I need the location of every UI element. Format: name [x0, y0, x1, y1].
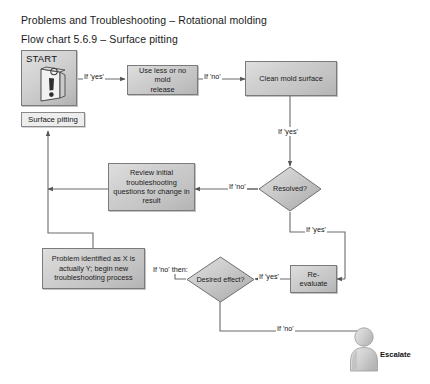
node-surface-pitting-label: Surface pitting — [28, 115, 78, 124]
text-line: Problem identified as X is — [46, 254, 141, 263]
node-start[interactable]: START — [21, 50, 77, 106]
edge-label-use-less-to-clean: If 'no' — [203, 72, 222, 81]
edge-label-start-to-use-less: If 'yes' — [83, 72, 105, 81]
node-desired-effect-decision[interactable]: Desired effect? — [186, 256, 255, 303]
text-line: troubleshooting — [112, 178, 191, 187]
edge-label-clean-to-resolved: If 'yes' — [277, 127, 299, 136]
node-use-less-release[interactable]: Use less or no mold release — [127, 65, 198, 95]
flowchart-canvas: Problems and Troubleshooting – Rotationa… — [0, 0, 430, 384]
edge-label-desired-to-escalate: If 'no' — [276, 324, 295, 333]
node-resolved-decision[interactable]: Resolved? — [258, 166, 322, 212]
node-problem-identified-label: Problem identified as X is actually Y; b… — [46, 254, 141, 282]
node-clean-mold-surface[interactable]: Clean mold surface — [245, 61, 337, 96]
diamond-shape — [258, 166, 322, 212]
node-clean-mold-surface-label: Clean mold surface — [249, 74, 333, 83]
page-title: Problems and Troubleshooting – Rotationa… — [21, 14, 267, 26]
text-line: release — [131, 85, 194, 94]
text-line: questions for change in — [112, 187, 191, 196]
node-re-evaluate-label: Re-evaluate — [294, 270, 333, 289]
edge-label-desired-to-problem: If 'no' then: — [152, 265, 189, 274]
text-line: result — [112, 196, 191, 205]
edge-label-resolved-to-reevaluate: If 'yes' — [305, 225, 327, 234]
text-line: Use less or no mold — [131, 66, 194, 85]
node-surface-pitting[interactable]: Surface pitting — [21, 112, 85, 127]
start-label: START — [26, 53, 57, 64]
page-subtitle: Flow chart 5.6.9 – Surface pitting — [21, 33, 178, 45]
node-re-evaluate[interactable]: Re-evaluate — [290, 265, 337, 293]
node-review-initial-label: Review initial troubleshooting questions… — [112, 168, 191, 206]
text-line: troubleshooting process — [46, 273, 141, 282]
node-escalate-label: Escalate — [380, 350, 411, 359]
edge-label-reevaluate-to-desired: If 'yes' — [258, 272, 280, 281]
text-line: Review initial — [112, 168, 191, 177]
node-review-initial[interactable]: Review initial troubleshooting questions… — [108, 163, 195, 211]
node-problem-identified[interactable]: Problem identified as X is actually Y; b… — [42, 248, 145, 289]
person-icon[interactable] — [348, 326, 380, 372]
edge-label-resolved-to-review: If 'no' — [228, 182, 247, 191]
text-line: actually Y; begin new — [46, 264, 141, 273]
warning-document-icon — [35, 65, 69, 103]
node-use-less-release-label: Use less or no mold release — [131, 66, 194, 94]
diamond-shape — [186, 256, 255, 303]
